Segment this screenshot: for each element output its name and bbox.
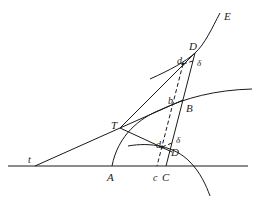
curve-upper-E [150,13,220,79]
label-T: T [111,119,118,131]
geometry-diagram: E D d δ b B T t d δ D A c C [0,0,260,204]
label-delta-upper: δ [197,58,202,68]
label-C: C [162,171,170,183]
line-T-Dlower [120,128,172,152]
label-delta-lower: δ [176,135,181,145]
label-b: b [168,95,173,106]
label-A: A [106,171,114,183]
line-T-B [120,100,183,128]
label-c: c [153,172,158,183]
label-D-lower: D [170,146,179,158]
label-t: t [28,154,31,165]
label-E: E [223,10,231,22]
line-t-T [35,128,120,166]
label-B: B [186,102,193,114]
label-D-upper: D [188,40,197,52]
